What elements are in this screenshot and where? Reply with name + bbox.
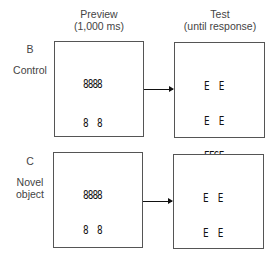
figure-row: 8 8 [83,117,102,130]
preview-figure-novel-object: 8888 8 8 88 8 8 8 8 8 8888 [83,167,102,259]
condition-label-line: object [8,188,52,200]
condition-label-line: Novel [8,176,52,188]
test-figure-novel-object: E E E E EESE E E E E [203,169,223,259]
figure-row: E E [204,80,224,92]
figure-row: E E [203,227,223,239]
condition-label-control: Control [8,64,52,76]
test-box-control: E E E E EESE E E E E [174,42,265,138]
figure-row: 8888 [83,78,102,91]
panel-letter-b: B [24,43,36,55]
header-preview-duration: (1,000 ms) [54,20,144,32]
header-test-title: Test [174,8,266,20]
figure-row: E E [203,192,223,204]
condition-label-novel-object: Novel object [8,176,52,200]
header-preview: Preview (1,000 ms) [54,8,144,32]
figure-row: 8 8 [83,225,102,237]
preview-box-control: 8888 8 8 8888 8 8 8888 [54,41,144,137]
arrow-control [144,89,173,90]
header-preview-title: Preview [54,8,144,20]
preview-box-novel-object: 8888 8 8 88 8 8 8 8 8 8888 [53,152,143,248]
panel-letter-c: C [24,155,36,167]
arrow-novel-object [143,201,172,202]
header-test: Test (until response) [174,8,266,32]
header-test-duration: (until response) [174,20,266,32]
figure-row: 8888 [83,190,102,202]
figure-row: E E [204,115,224,127]
test-box-novel-object: E E E E EESE E E E E [173,154,264,249]
